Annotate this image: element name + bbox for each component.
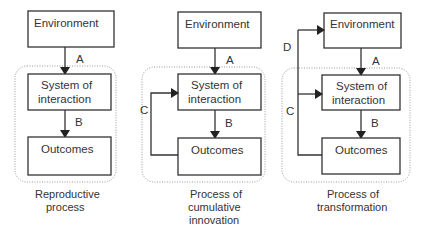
system-label-line2: interaction xyxy=(332,94,385,106)
caption-line2: process xyxy=(46,201,85,213)
caption-line2: transformation xyxy=(317,201,387,213)
environment-label: Environment xyxy=(185,18,250,30)
arrow-b-label: B xyxy=(225,117,233,129)
outcomes-label: Outcomes xyxy=(191,144,244,156)
arrow-b-label: B xyxy=(75,116,83,128)
arrow-c-label: C xyxy=(140,104,148,116)
arrow-d-label: D xyxy=(283,41,291,53)
arrow-a-label: A xyxy=(226,54,234,66)
caption-line1: Process of xyxy=(190,188,243,200)
arrow-a-label: A xyxy=(372,55,380,67)
system-label-line2: interaction xyxy=(188,93,241,105)
panel-reproductive: Environment A System of interaction B Ou… xyxy=(15,11,116,213)
feedback-line xyxy=(298,30,322,155)
panel-cumulative-innovation: Environment A System of interaction B Ou… xyxy=(140,12,265,226)
environment-label: Environment xyxy=(34,17,99,29)
system-label-line2: interaction xyxy=(38,93,91,105)
feedback-arrow-c xyxy=(151,93,178,155)
system-label-line1: System of xyxy=(336,80,388,92)
caption-line1: Process of xyxy=(327,188,380,200)
arrow-c-label: C xyxy=(286,105,294,117)
caption-line2: cumulative xyxy=(188,201,241,213)
caption-line1: Reproductive xyxy=(35,188,100,200)
arrow-a-label: A xyxy=(76,53,84,65)
arrow-b-label: B xyxy=(371,117,379,129)
outcomes-label: Outcomes xyxy=(41,143,94,155)
environment-label: Environment xyxy=(330,18,395,30)
system-label-line1: System of xyxy=(191,79,243,91)
caption-line3: innovation xyxy=(189,214,239,226)
system-label-line1: System of xyxy=(41,79,93,91)
panel-transformation: Environment A System of interaction B Ou… xyxy=(282,13,410,213)
diagram-canvas: Environment A System of interaction B Ou… xyxy=(0,0,428,234)
outcomes-label: Outcomes xyxy=(335,144,388,156)
